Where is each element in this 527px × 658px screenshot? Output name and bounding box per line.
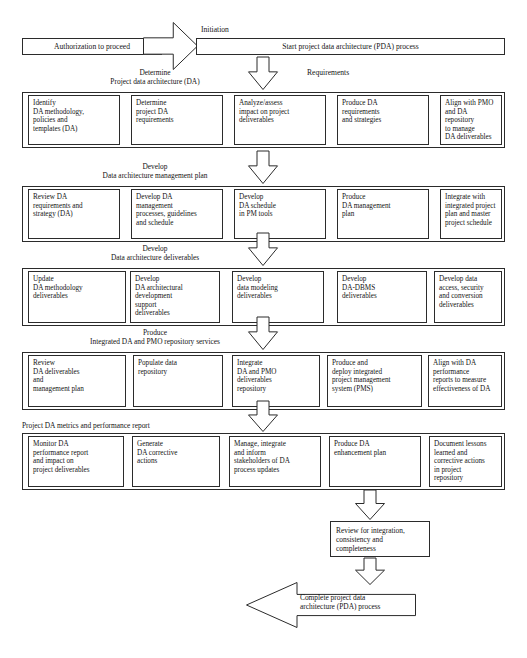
section-label-metrics: Project DA metrics and performance repor… — [22, 421, 150, 430]
start-pda-process-box: Start project data architecture (PDA) pr… — [196, 38, 505, 55]
step-box: Integrate with integrated project plan a… — [440, 189, 502, 239]
step-box: Populate data repository — [133, 355, 223, 407]
step-box: Manage, integrate and inform stakeholder… — [229, 436, 321, 487]
step-box: Produce DA management plan — [337, 189, 429, 239]
step-box: Develop data access, security and conver… — [434, 271, 502, 323]
step-box: Develop DA schedule in PM tools — [234, 189, 326, 239]
step-box: Produce DA enhancement plan — [329, 436, 421, 487]
step-box: Determine project DA requirements — [131, 95, 223, 145]
complete-inflow-arrow — [355, 558, 385, 585]
step-box: Identify DA methodology, policies and te… — [28, 95, 120, 145]
step-box: Develop DA architectural development sup… — [130, 271, 220, 323]
step-box: Monitor DA performance report and impact… — [28, 436, 124, 487]
step-box: Integrate DA and PMO deliverables reposi… — [232, 355, 320, 407]
step-box: Review DA deliverables and management pl… — [28, 355, 126, 407]
section-label-produce-repository: Produce Integrated DA and PMO repository… — [0, 328, 310, 346]
step-box: Develop DA management processes, guideli… — [131, 189, 223, 239]
initiation-label: Initiation — [201, 25, 229, 34]
step-box: Produce DA requirements and strategies — [337, 95, 429, 145]
step-box: Develop DA-DBMS deliverables — [337, 271, 427, 323]
flowchart-canvas: Authorization to proceedInitiationStart … — [0, 0, 527, 658]
step-box: Align with DA performance reports to mea… — [428, 355, 502, 407]
step-box: Produce and deploy integrated project ma… — [327, 355, 422, 407]
step-box: Review DA requirements and strategy (DA) — [28, 189, 120, 239]
section-label-develop-deliverables: Develop Data architecture deliverables — [0, 244, 310, 262]
initiation-right-arrow — [143, 22, 198, 70]
review-box: Review for integration, consistency and … — [330, 521, 430, 557]
section-label-determine: Determine Project data architecture (DA) — [0, 68, 310, 86]
step-box: Update DA methodology deliverables — [28, 271, 126, 323]
section-metrics-inflow-arrow — [248, 401, 278, 432]
step-box: Generate DA corrective actions — [132, 436, 220, 487]
review-inflow-arrow — [355, 490, 385, 520]
step-box: Document lessons learned and corrective … — [429, 436, 502, 487]
authorization-to-proceed-box: Authorization to proceed — [22, 38, 162, 55]
section-label-develop-plan: Develop Data architecture management pla… — [0, 162, 310, 180]
requirements-label: Requirements — [307, 68, 349, 77]
step-box: Analyze/assess impact on project deliver… — [234, 95, 326, 145]
complete-process-label: Complete project data architecture (PDA)… — [300, 593, 380, 612]
step-box: Develop data modeling deliverables — [232, 271, 324, 323]
step-box: Align with PMO and DA repository to mana… — [440, 95, 502, 145]
